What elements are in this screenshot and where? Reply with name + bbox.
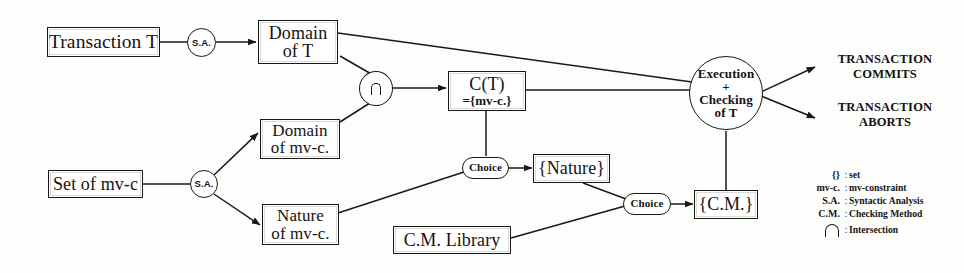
legend-row-intersection: : Intersection [806, 221, 958, 237]
outcome-commit-line2: COMMITS [820, 67, 950, 82]
node-set-cm-label: {C.M.} [699, 195, 754, 213]
node-cm-library[interactable]: C.M. Library [393, 226, 511, 254]
node-set-cm[interactable]: {C.M.} [694, 190, 758, 219]
legend-symbol-intersection [806, 223, 843, 236]
outcome-abort-line1: TRANSACTION [820, 100, 950, 115]
edge-sa-to-domain-of-mvc [214, 133, 258, 175]
legend-row-mvc: mv-c. : mv-constraint [806, 181, 958, 194]
node-set-of-mvc-label: Set of mv-c [53, 175, 138, 193]
legend-row-cm: C.M. : Checking Method [806, 207, 958, 220]
legend-row-sa: S.A. : Syntactic Analysis [806, 194, 958, 207]
node-choice-nature-label: Choice [469, 162, 502, 173]
node-set-nature[interactable]: {Nature} [533, 154, 610, 183]
legend: {} : set mv-c. : mv-constraint S.A. : Sy… [806, 168, 958, 237]
legend-description-cm: Checking Method [849, 208, 922, 219]
outcome-transaction-aborts: TRANSACTION ABORTS [820, 100, 950, 130]
legend-description-sa: Syntactic Analysis [849, 195, 923, 206]
legend-description-set: set [849, 169, 860, 180]
node-cm-library-label: C.M. Library [404, 231, 501, 249]
node-domain-of-t-line1: Domain [269, 24, 328, 42]
intersection-legend-icon [825, 223, 840, 236]
node-ct-line2: ={mv-c.} [462, 94, 511, 107]
node-domain-of-t[interactable]: Domain of T [258, 20, 338, 64]
edge-nature-of-mvc-to-choice [338, 172, 464, 213]
node-domain-of-mvc-line2: of mv-c. [271, 139, 329, 156]
node-execution-line4: of T [715, 106, 738, 119]
node-ct[interactable]: C(T) ={mv-c.} [448, 71, 526, 111]
diagram-canvas: Transaction T S.A. Domain of T C(T) ={mv… [0, 0, 964, 273]
node-sa-top[interactable]: S.A. [187, 28, 216, 57]
edge-execution-to-commit [761, 67, 815, 92]
node-execution-line2: + [722, 80, 730, 93]
legend-symbol-sa: S.A. [806, 195, 843, 206]
node-transaction-t-label: Transaction T [49, 32, 158, 52]
legend-description-mvc: mv-constraint [849, 182, 907, 193]
edge-execution-to-abort [761, 96, 815, 118]
intersection-icon [370, 81, 383, 96]
node-set-nature-label: {Nature} [538, 159, 605, 177]
edge-sa-to-nature-of-mvc [214, 194, 260, 225]
node-set-of-mvc[interactable]: Set of mv-c [48, 170, 143, 198]
node-transaction-t[interactable]: Transaction T [47, 27, 160, 57]
edge-set-nature-to-choice-cm [583, 183, 626, 199]
node-execution-line3: Checking [699, 93, 753, 106]
outcome-transaction-commits: TRANSACTION COMMITS [820, 52, 950, 82]
outcome-commit-line1: TRANSACTION [820, 52, 950, 67]
node-intersection[interactable] [359, 71, 393, 106]
node-choice-cm[interactable]: Choice [623, 193, 671, 215]
legend-description-intersection: Intersection [849, 224, 898, 235]
node-execution-line1: Execution [698, 67, 755, 80]
node-domain-of-t-line2: of T [283, 42, 314, 60]
edge-cm-library-to-choice-cm [511, 206, 625, 238]
node-domain-of-mvc-line1: Domain [272, 122, 327, 139]
legend-symbol-cm: C.M. [806, 208, 843, 219]
node-choice-cm-label: Choice [631, 198, 664, 209]
legend-row-set: {} : set [806, 168, 958, 181]
node-nature-of-mvc-line2: of mv-c. [271, 225, 329, 242]
node-choice-nature[interactable]: Choice [462, 157, 509, 179]
legend-symbol-set: {} [806, 169, 843, 180]
node-nature-of-mvc-line1: Nature [277, 207, 324, 224]
node-nature-of-mvc[interactable]: Nature of mv-c. [262, 204, 339, 245]
outcome-abort-line2: ABORTS [820, 115, 950, 130]
node-ct-line1: C(T) [469, 75, 504, 93]
node-sa-bottom[interactable]: S.A. [190, 170, 218, 198]
node-sa-top-label: S.A. [192, 38, 211, 48]
legend-symbol-mvc: mv-c. [806, 182, 843, 193]
node-execution-checking[interactable]: Execution + Checking of T [689, 56, 763, 130]
node-domain-of-mvc[interactable]: Domain of mv-c. [260, 119, 340, 159]
node-sa-bottom-label: S.A. [195, 179, 214, 189]
